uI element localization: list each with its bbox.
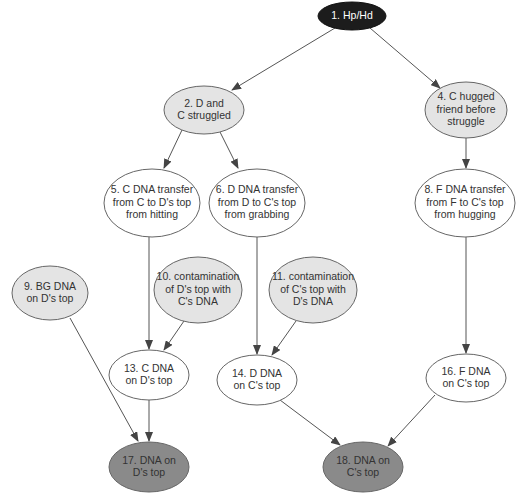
node-label: 4. C hugged [437,90,494,102]
node-label: 1. Hp/Hd [331,9,373,21]
node-14: 14. D DNAon C's top [217,355,297,405]
node-label: from D to C's top [218,196,297,208]
edge-2-to-6 [220,132,238,168]
node-5: 5. C DNA transferfrom C to D's topfrom h… [104,169,200,237]
node-label: 8. F DNA transfer [424,183,506,195]
node-label: on C's top [234,379,281,391]
node-label: from grabbing [225,208,290,220]
node-label: 6. D DNA transfer [216,183,299,195]
node-label: of C's top with [280,283,346,295]
edge-14-to-18 [280,400,340,445]
node-label: 13. C DNA [124,362,174,374]
node-16: 16. F DNAon C's top [426,354,506,402]
node-label: D's DNA [293,295,333,307]
node-label: 16. F DNA [441,365,490,377]
node-label: friend before [437,103,496,115]
edge-1-to-4 [370,28,440,88]
node-label: 9. BG DNA [24,280,76,292]
node-label: from hitting [126,208,178,220]
node-label: on D's top [126,374,173,386]
node-label: on D's top [27,292,74,304]
node-label: 5. C DNA transfer [111,183,194,195]
node-2: 2. D andC struggled [164,86,244,134]
node-label: 14. D DNA [232,367,282,379]
node-9: 9. BG DNAon D's top [12,266,88,320]
node-label: 17. DNA on [122,454,176,466]
node-label: C struggled [177,109,231,121]
node-label: from F to C's top [426,196,503,208]
node-label: from C to D's top [113,196,192,208]
node-10: 10. contaminationof D's top withC's DNA [154,257,242,323]
edge-1-to-2 [232,28,335,90]
node-13: 13. C DNAon D's top [109,350,189,400]
node-label: of D's top with [165,283,231,295]
node-label: C's DNA [178,295,218,307]
node-label: from hugging [434,208,495,220]
edge-10-to-13 [164,321,184,350]
node-17: 17. DNA onD's top [109,442,189,492]
node-label: 10. contamination [157,270,240,282]
nodes-layer: 1. Hp/Hd2. D andC struggled4. C huggedfr… [12,2,515,492]
node-6: 6. D DNA transferfrom D to C's topfrom g… [209,169,305,237]
edge-2-to-5 [164,130,182,168]
node-label: struggle [447,115,485,127]
edge-16-to-18 [388,395,435,446]
node-8: 8. F DNA transferfrom F to C's topfrom h… [415,169,515,237]
node-4: 4. C huggedfriend beforestruggle [425,82,507,138]
node-1: 1. Hp/Hd [318,2,386,30]
node-label: C's top [347,466,380,478]
node-18: 18. DNA onC's top [323,442,403,492]
node-11: 11. contaminationof C's top withD's DNA [269,257,357,323]
edge-11-to-14 [272,321,296,355]
dna-transfer-bayesian-network: 1. Hp/Hd2. D andC struggled4. C huggedfr… [0,0,530,498]
node-label: 2. D and [184,97,224,109]
node-label: 18. DNA on [336,454,390,466]
node-label: D's top [133,466,166,478]
node-label: on C's top [443,377,490,389]
node-label: 11. contamination [272,270,354,282]
